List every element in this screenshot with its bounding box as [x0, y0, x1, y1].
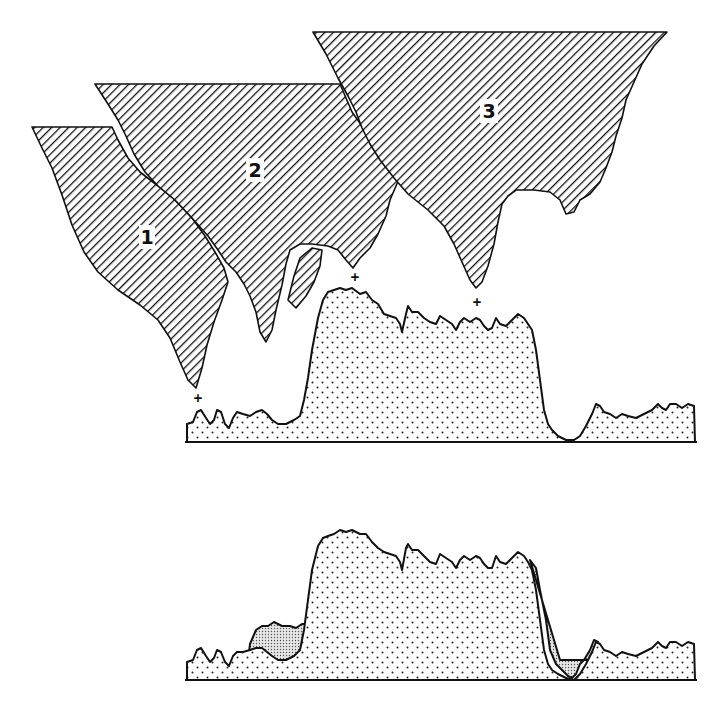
marker-region-2: +	[351, 269, 359, 285]
region-3-label: 3	[480, 99, 498, 123]
marker-region-1: +	[194, 390, 202, 406]
region-2-label: 2	[246, 158, 264, 182]
figure-diagram: 1 2 3 + + +	[0, 0, 724, 701]
svg-text:1: 1	[140, 226, 153, 248]
marker-region-3: +	[473, 294, 481, 310]
region-1-label: 1	[139, 225, 155, 249]
lower-profile	[185, 530, 697, 680]
svg-text:2: 2	[248, 159, 261, 181]
svg-text:3: 3	[482, 100, 495, 122]
